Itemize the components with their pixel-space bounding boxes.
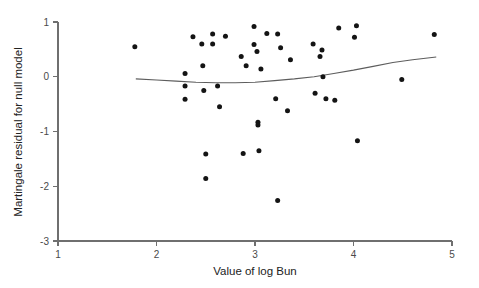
data-point <box>313 91 318 96</box>
data-point <box>241 151 246 156</box>
data-point <box>256 148 261 153</box>
data-point <box>432 32 437 37</box>
data-point <box>318 54 323 59</box>
data-point <box>254 49 259 54</box>
data-point <box>252 42 257 47</box>
data-point <box>352 35 357 40</box>
data-point <box>199 41 204 46</box>
data-point <box>258 67 263 72</box>
data-point <box>239 54 244 59</box>
scatter-plot: 10-1-2-3 12345 Value of log Bun Martinga… <box>0 0 479 288</box>
data-point <box>311 41 316 46</box>
data-point <box>183 71 188 76</box>
data-point <box>320 74 325 79</box>
data-point <box>273 96 278 101</box>
y-axis-title: Martingale residual for null model <box>12 47 24 216</box>
x-axis-title: Value of log Bun <box>213 265 297 277</box>
data-point <box>132 44 137 49</box>
data-point <box>215 84 220 89</box>
data-point <box>323 96 328 101</box>
data-point <box>252 24 257 29</box>
data-point <box>255 122 260 127</box>
data-point <box>223 34 228 39</box>
data-point <box>288 57 293 62</box>
data-point <box>319 47 324 52</box>
data-point <box>354 23 359 28</box>
smoother-curve-group <box>136 57 436 83</box>
data-point <box>210 32 215 37</box>
data-point <box>355 138 360 143</box>
data-point <box>217 104 222 109</box>
data-point <box>244 63 249 68</box>
x-tick-label: 2 <box>154 249 160 260</box>
data-point <box>201 88 206 93</box>
data-point <box>203 151 208 156</box>
lowess-smoother-line <box>136 57 436 83</box>
data-point <box>399 77 404 82</box>
y-tick-label: -2 <box>40 181 49 192</box>
axes <box>58 22 452 241</box>
y-tick-label: 1 <box>43 17 49 28</box>
data-point <box>264 31 269 36</box>
data-points-group <box>132 23 436 203</box>
chart-container: 10-1-2-3 12345 Value of log Bun Martinga… <box>0 0 479 288</box>
data-point <box>275 32 280 37</box>
data-point <box>190 34 195 39</box>
y-axis-ticks: 10-1-2-3 <box>40 17 58 247</box>
data-point <box>285 108 290 113</box>
x-tick-label: 5 <box>449 249 455 260</box>
y-tick-label: 0 <box>43 71 49 82</box>
data-point <box>210 41 215 46</box>
x-tick-label: 4 <box>351 249 357 260</box>
data-point <box>200 63 205 68</box>
data-point <box>332 98 337 103</box>
y-tick-label: -3 <box>40 236 49 247</box>
data-point <box>203 176 208 181</box>
x-tick-label: 1 <box>55 249 61 260</box>
data-point <box>336 26 341 31</box>
data-point <box>278 45 283 50</box>
y-tick-label: -1 <box>40 126 49 137</box>
data-point <box>183 84 188 89</box>
x-axis-ticks: 12345 <box>55 241 455 260</box>
x-tick-label: 3 <box>252 249 258 260</box>
data-point <box>275 198 280 203</box>
data-point <box>183 97 188 102</box>
